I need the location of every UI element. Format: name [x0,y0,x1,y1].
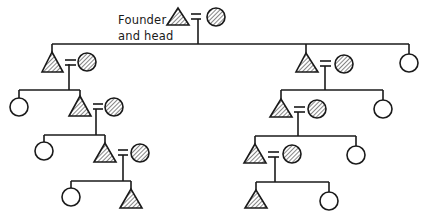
wife-circle-icon [105,98,123,116]
g2-r-female-circle-icon [374,100,392,118]
g3-r-female-circle-icon [347,146,365,164]
male-triangle-icon [69,96,91,116]
g2-l-female-circle-icon [10,98,28,116]
wife-circle-icon [308,100,326,118]
g4-l-female-circle-icon [62,188,80,206]
wife-circle-icon [131,144,149,162]
male-triangle-icon [244,144,266,163]
wife-circle-icon [283,145,301,163]
male-triangle-icon [296,53,318,72]
founder-label-line1: Founder [118,13,166,27]
male-triangle-icon [270,99,292,117]
g3-l-couple [94,143,149,162]
founder-male-triangle-icon [167,8,189,25]
g4-r-female-circle-icon [320,192,338,210]
g4-r-male-triangle-icon [245,190,267,208]
wife-circle-icon [335,55,353,73]
founder-wife-circle-icon [207,8,225,26]
g3-r-couple [244,144,301,163]
g3-l-female-circle-icon [35,142,53,160]
kinship-diagram [0,0,429,221]
founder-label-line2: and head [118,29,174,43]
male-triangle-icon [42,52,63,72]
founder-couple [167,8,225,26]
wife-circle-icon [78,53,96,71]
g4-l-male-triangle-icon [120,189,142,208]
male-triangle-icon [94,143,116,162]
g1-right-female-circle-icon [400,54,418,72]
